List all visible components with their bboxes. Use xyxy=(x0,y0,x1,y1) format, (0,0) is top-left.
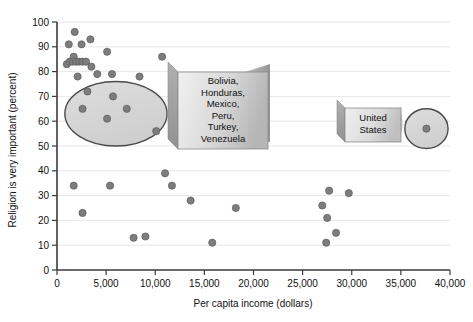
data-point xyxy=(209,239,216,246)
x-tick-label: 20,000 xyxy=(238,278,269,289)
y-tick-label: 0 xyxy=(43,265,49,276)
x-tick-label: 30,000 xyxy=(336,278,367,289)
data-point xyxy=(161,170,168,177)
callout-line: Bolivia, xyxy=(208,75,239,86)
x-tick-label: 40,000 xyxy=(435,278,466,289)
data-point xyxy=(345,190,352,197)
data-point xyxy=(153,128,160,135)
united-states-callout: UnitedStates xyxy=(337,100,401,142)
y-tick-label: 70 xyxy=(38,91,50,102)
data-point xyxy=(79,209,86,216)
data-point xyxy=(159,53,166,60)
y-axis-label: Religion is very important (percent) xyxy=(7,72,18,227)
x-axis-ticks: 05,00010,00015,00020,00025,00030,00035,0… xyxy=(54,270,466,289)
data-point xyxy=(79,105,86,112)
data-point xyxy=(109,93,116,100)
data-point xyxy=(84,88,91,95)
data-point xyxy=(88,63,95,70)
data-point xyxy=(319,202,326,209)
y-tick-label: 20 xyxy=(38,215,50,226)
data-point xyxy=(187,197,194,204)
y-tick-label: 60 xyxy=(38,116,50,127)
data-point xyxy=(326,187,333,194)
y-tick-label: 30 xyxy=(38,190,50,201)
data-point xyxy=(94,70,101,77)
data-point xyxy=(106,182,113,189)
data-point xyxy=(104,115,111,122)
data-point xyxy=(123,105,130,112)
data-point xyxy=(65,41,72,48)
callout-line: States xyxy=(360,124,387,135)
y-tick-label: 90 xyxy=(38,41,50,52)
x-axis-label: Per capita income (dollars) xyxy=(194,298,313,309)
data-point xyxy=(323,239,330,246)
data-point xyxy=(168,182,175,189)
y-tick-label: 10 xyxy=(38,240,50,251)
x-tick-label: 5,000 xyxy=(94,278,119,289)
data-point xyxy=(332,229,339,236)
callout-line: Mexico, xyxy=(207,98,240,109)
data-point xyxy=(78,41,85,48)
data-point xyxy=(423,125,430,132)
data-point xyxy=(104,48,111,55)
chart-svg: 05,00010,00015,00020,00025,00030,00035,0… xyxy=(0,0,473,322)
data-point xyxy=(232,204,239,211)
x-tick-label: 25,000 xyxy=(287,278,318,289)
data-point xyxy=(71,28,78,35)
y-tick-label: 80 xyxy=(38,66,50,77)
y-tick-label: 40 xyxy=(38,165,50,176)
callout-line: Venezuela xyxy=(201,133,246,144)
data-point xyxy=(324,214,331,221)
callout-line: United xyxy=(359,112,386,123)
callout-boxes: Bolivia,Honduras,Mexico,Peru,Turkey,Vene… xyxy=(168,62,401,149)
data-point xyxy=(87,36,94,43)
y-axis-ticks: 0102030405060708090100 xyxy=(32,17,57,276)
x-tick-label: 10,000 xyxy=(140,278,171,289)
countries-callout: Bolivia,Honduras,Mexico,Peru,Turkey,Vene… xyxy=(168,62,268,149)
data-point xyxy=(130,234,137,241)
x-tick-label: 35,000 xyxy=(386,278,417,289)
callout-line: Peru, xyxy=(212,110,235,121)
data-point xyxy=(74,73,81,80)
cluster-ellipse-left xyxy=(65,82,167,146)
data-point xyxy=(142,233,149,240)
y-tick-label: 50 xyxy=(38,141,50,152)
callout-line: Turkey, xyxy=(208,121,239,132)
data-point xyxy=(108,70,115,77)
data-point xyxy=(70,182,77,189)
x-tick-label: 15,000 xyxy=(189,278,220,289)
x-tick-label: 0 xyxy=(54,278,60,289)
y-tick-label: 100 xyxy=(32,17,49,28)
callout-line: Honduras, xyxy=(201,87,245,98)
data-point xyxy=(136,73,143,80)
scatter-chart: 05,00010,00015,00020,00025,00030,00035,0… xyxy=(0,0,473,322)
